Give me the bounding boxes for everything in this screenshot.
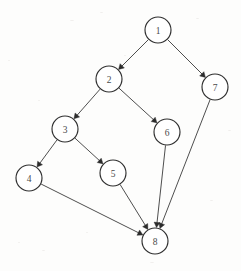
edge-line: [119, 88, 155, 121]
node-label: 1: [156, 26, 161, 36]
graph-diagram-canvas: 12345678: [0, 0, 241, 271]
edge-2-to-3: [74, 89, 100, 119]
graph-svg: 12345678: [0, 0, 241, 271]
edge-line: [76, 89, 100, 117]
graph-node-4[interactable]: 4: [16, 165, 42, 191]
edge-line: [120, 184, 146, 227]
edge-1-to-2: [119, 40, 149, 70]
arrowhead-icon: [159, 222, 165, 228]
edge-line: [41, 184, 140, 234]
edge-line: [157, 145, 166, 224]
node-label: 2: [107, 75, 112, 85]
edge-line: [168, 40, 204, 76]
edge-3-to-4: [37, 140, 57, 167]
graph-node-1[interactable]: 1: [145, 17, 171, 43]
graph-node-7[interactable]: 7: [202, 74, 228, 100]
node-label: 7: [213, 83, 218, 93]
node-label: 6: [165, 128, 170, 138]
edge-2-to-6: [119, 88, 157, 123]
node-label: 3: [63, 125, 68, 135]
graph-node-6[interactable]: 6: [154, 119, 180, 145]
graph-node-3[interactable]: 3: [52, 116, 78, 142]
graph-node-8[interactable]: 8: [142, 228, 168, 254]
edge-3-to-5: [75, 138, 103, 164]
edge-line: [39, 140, 57, 165]
edge-5-to-8: [120, 184, 148, 229]
node-label: 4: [27, 174, 32, 184]
edge-1-to-7: [168, 40, 206, 78]
edge-6-to-8: [154, 145, 165, 227]
node-label: 5: [111, 169, 116, 179]
arrowhead-icon: [37, 161, 42, 167]
node-label: 8: [153, 237, 158, 247]
edge-4-to-8: [41, 184, 143, 235]
graph-node-5[interactable]: 5: [100, 160, 126, 186]
edge-line: [75, 138, 101, 162]
graph-node-2[interactable]: 2: [96, 66, 122, 92]
edge-line: [121, 40, 149, 68]
